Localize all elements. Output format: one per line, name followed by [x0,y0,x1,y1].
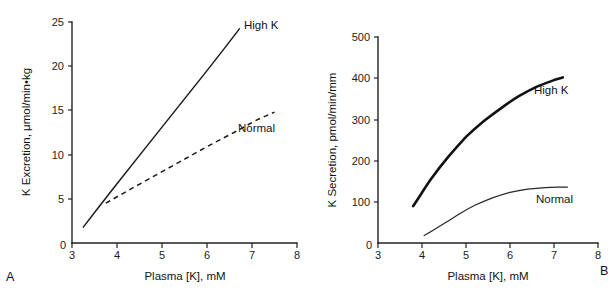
panel-b-ylabel-300: 300 [352,114,370,126]
panel-b-ylabel-400: 400 [352,72,370,84]
panel-a-ylabel-15: 15 [52,104,64,116]
panel-a-ylabel-25: 25 [52,16,64,28]
panel-a-ylabel-10: 10 [52,149,64,161]
panel-b-annotation-normal: Normal [536,193,573,205]
panel-b-xlabel-6: 6 [507,249,513,261]
panel-a-xlabel-4: 4 [114,249,120,261]
chart-panel-a: 25 20 15 10 5 0 3 4 5 6 7 8 Plasma [K], … [0,0,308,291]
panel-letter-b: B [600,264,608,278]
panel-b-ylabel-200: 200 [352,155,370,167]
panel-a-annotation-high-k: High K [244,19,279,31]
panel-b-xlabel-7: 7 [551,249,557,261]
panel-letter-a: A [6,270,15,284]
figure-root: 25 20 15 10 5 0 3 4 5 6 7 8 Plasma [K], … [0,0,616,291]
panel-b-annotation-high-k: High K [534,84,569,96]
panel-b-svg: 500 400 300 200 100 0 3 4 5 6 7 8 Plasma… [308,0,616,291]
chart-panel-b: 500 400 300 200 100 0 3 4 5 6 7 8 Plasma… [308,0,616,291]
panel-b-series-high-k [413,77,563,206]
panel-b-ylabel-0: 0 [366,239,372,251]
panel-a-annotation-normal: Normal [238,122,275,134]
panel-a-y-axis-title: K Excretion, μmol/min•kg [20,68,32,196]
panel-b-xlabel-8: 8 [595,249,601,261]
panel-b-xlabel-4: 4 [419,249,425,261]
panel-a-xlabel-5: 5 [159,249,165,261]
panel-b-ylabel-100: 100 [352,196,370,208]
panel-b-xlabel-5: 5 [463,249,469,261]
panel-a-svg: 25 20 15 10 5 0 3 4 5 6 7 8 Plasma [K], … [0,0,308,291]
panel-a-xlabel-8: 8 [294,249,300,261]
panel-a-xlabel-7: 7 [249,249,255,261]
panel-b-ylabel-500: 500 [352,31,370,43]
panel-a-ylabel-0: 0 [60,239,66,251]
panel-a-xlabel-6: 6 [204,249,210,261]
panel-b-x-axis-title: Plasma [K], mM [447,270,528,282]
panel-a-xlabel-3: 3 [69,249,75,261]
panel-a-series-high-k [83,29,239,227]
panel-a-ylabel-5: 5 [58,193,64,205]
panel-b-y-axis-title: K Secretion, pmol/min/mm [326,73,338,208]
panel-a-x-axis-title: Plasma [K], mM [144,270,225,282]
panel-a-ylabel-20: 20 [52,60,64,72]
panel-b-xlabel-3: 3 [375,249,381,261]
